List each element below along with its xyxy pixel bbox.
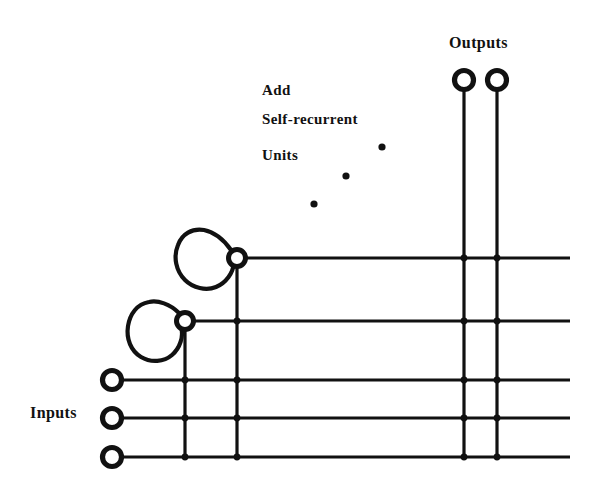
junction-u1col-i1 (182, 377, 189, 384)
junction-o2col-i3 (494, 454, 501, 461)
junction-dots (182, 255, 501, 461)
ellipsis-dot-2 (342, 172, 349, 179)
output-terminals (455, 71, 507, 90)
junction-o2col-i1 (494, 377, 501, 384)
network-diagram: Outputs Inputs Add Self-recurrent Units (0, 0, 600, 481)
input-terminal-2[interactable] (103, 409, 122, 428)
ellipsis-dot-3 (310, 200, 317, 207)
junction-o2col-r1 (494, 255, 501, 262)
input-terminals (103, 371, 122, 467)
input-terminal-1[interactable] (103, 371, 122, 390)
recurrent-unit-1[interactable] (177, 313, 194, 330)
self-loop-1 (128, 301, 182, 360)
junction-o1col-r2 (461, 318, 468, 325)
junction-u2col-i3 (234, 454, 241, 461)
diagram-canvas: Outputs Inputs Add Self-recurrent Units (0, 0, 600, 481)
inputs-label: Inputs (30, 404, 77, 422)
annotation-line-2: Self-recurrent (262, 111, 358, 127)
diagram-labels: Outputs Inputs Add Self-recurrent Units (30, 34, 508, 422)
junction-o1col-i3 (461, 454, 468, 461)
junction-o2col-r2 (494, 318, 501, 325)
ellipsis-dots (310, 143, 385, 207)
junction-o1col-r1 (461, 255, 468, 262)
junction-o2col-i2 (494, 415, 501, 422)
annotation-line-1: Add (262, 82, 291, 98)
junction-o1col-i1 (461, 377, 468, 384)
input-terminal-3[interactable] (103, 448, 122, 467)
junction-u2col-i2 (234, 415, 241, 422)
ellipsis-dot-1 (378, 143, 385, 150)
output-terminal-2[interactable] (488, 71, 507, 90)
junction-u2col-r2 (234, 318, 241, 325)
recurrent-unit-2[interactable] (229, 250, 246, 267)
outputs-label: Outputs (449, 34, 508, 52)
horizontal-wires (112, 258, 570, 457)
junction-o1col-i2 (461, 415, 468, 422)
self-loop-2 (176, 230, 234, 289)
junction-u1col-i3 (182, 454, 189, 461)
junction-u1col-i2 (182, 415, 189, 422)
junction-u2col-i1 (234, 377, 241, 384)
self-recurrent-loops (128, 230, 234, 361)
annotation-line-3: Units (262, 147, 298, 163)
output-terminal-1[interactable] (455, 71, 474, 90)
